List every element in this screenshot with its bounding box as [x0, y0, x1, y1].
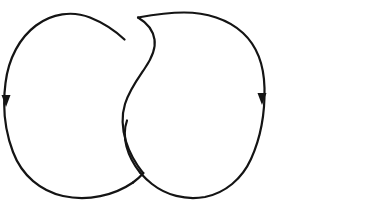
hopf-link-figure: [0, 0, 371, 214]
left-component: [2, 14, 144, 198]
left-orientation-arrow-icon: [2, 95, 11, 107]
knot-diagram-canvas: [0, 0, 371, 214]
left-component-main-arc: [4, 14, 133, 198]
right-component: [123, 13, 267, 199]
right-component-main-arc: [138, 13, 265, 199]
